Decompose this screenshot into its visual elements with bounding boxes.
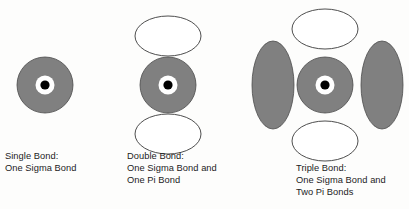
triple-bond-diagram xyxy=(252,9,403,161)
caption-single-bond-line-2: One Sigma Bond xyxy=(5,162,77,174)
nucleus-dot-single xyxy=(40,80,49,89)
pi-orbital-top-triple xyxy=(292,9,358,49)
pi-orbital-right-triple xyxy=(361,41,403,129)
pi-orbital-left-triple xyxy=(252,41,294,129)
caption-double-bond-line-2: One Sigma Bond and xyxy=(127,162,217,174)
pi-orbital-bottom-triple xyxy=(292,121,358,161)
double-bond-diagram xyxy=(135,16,201,154)
pi-orbital-bottom-double xyxy=(135,114,201,154)
caption-double-bond: Double Bond: One Sigma Bond and One Pi B… xyxy=(127,150,217,187)
pi-orbital-top-double xyxy=(135,16,201,56)
caption-triple-bond-line-1: Triple Bond: xyxy=(296,162,386,174)
bond-diagram-page: Single Bond: One Sigma Bond Double Bond:… xyxy=(0,0,409,209)
nucleus-dot-double xyxy=(163,80,172,89)
caption-double-bond-line-1: Double Bond: xyxy=(127,150,217,162)
caption-triple-bond: Triple Bond: One Sigma Bond and Two Pi B… xyxy=(296,162,386,199)
single-bond-diagram xyxy=(17,57,73,113)
caption-single-bond: Single Bond: One Sigma Bond xyxy=(5,150,77,174)
nucleus-dot-triple xyxy=(320,80,329,89)
caption-triple-bond-line-2: One Sigma Bond and xyxy=(296,174,386,186)
caption-single-bond-line-1: Single Bond: xyxy=(5,150,77,162)
caption-double-bond-line-3: One Pi Bond xyxy=(127,174,217,186)
caption-triple-bond-line-3: Two Pi Bonds xyxy=(296,186,386,198)
